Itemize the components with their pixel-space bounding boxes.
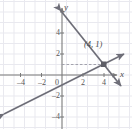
origin-label: 0 [52,79,62,87]
graph-canvas [0,0,132,129]
axis-lines [0,8,117,129]
x-tick-2: 2 [77,79,89,87]
x-tick-minus-4: –4 [14,79,28,87]
intersection-point-marker [101,62,107,68]
y-tick-2: 2 [50,50,60,58]
y-tick-minus-2: –2 [46,92,60,100]
intersection-point-label: (4, 1) [84,40,102,49]
y-tick-minus-4: –4 [46,113,60,121]
coordinate-plane-figure: x y –4 –2 2 4 0 4 2 –2 –4 (4, 1) [0,0,132,129]
y-tick-4: 4 [50,29,60,37]
x-axis-label: x [120,70,124,79]
x-tick-minus-2: –2 [35,79,49,87]
grid-lines [0,0,132,129]
y-axis-label: y [64,3,68,12]
x-tick-4: 4 [98,79,110,87]
